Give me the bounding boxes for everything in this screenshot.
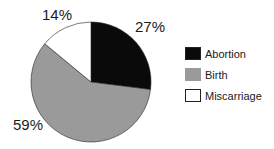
legend-label: Miscarriage bbox=[205, 90, 262, 102]
legend-swatch-miscarriage bbox=[185, 89, 201, 102]
label-miscarriage-pct: 14% bbox=[42, 6, 72, 23]
legend-label: Abortion bbox=[205, 48, 246, 60]
legend-swatch-birth bbox=[185, 68, 201, 81]
legend-item-abortion: Abortion bbox=[185, 43, 262, 64]
legend-item-birth: Birth bbox=[185, 64, 262, 85]
label-birth-pct: 59% bbox=[13, 116, 43, 133]
legend-item-miscarriage: Miscarriage bbox=[185, 85, 262, 106]
legend: Abortion Birth Miscarriage bbox=[185, 43, 262, 106]
label-abortion-pct: 27% bbox=[135, 18, 165, 35]
legend-label: Birth bbox=[205, 69, 228, 81]
legend-swatch-abortion bbox=[185, 47, 201, 60]
